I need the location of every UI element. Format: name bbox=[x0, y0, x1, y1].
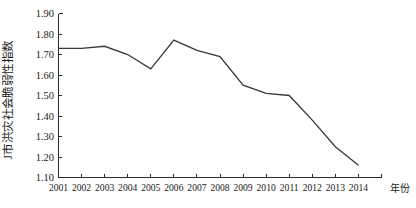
x-axis-tick-marks bbox=[59, 174, 359, 178]
x-tick-label: 2011 bbox=[280, 182, 299, 193]
y-axis-tick-marks bbox=[59, 14, 63, 178]
y-tick-label: 1.30 bbox=[36, 131, 54, 142]
x-tick-label: 2010 bbox=[257, 182, 276, 193]
y-tick-label: 1.80 bbox=[36, 29, 54, 40]
x-axis-title: 年份 bbox=[390, 182, 410, 194]
x-tick-label: 2004 bbox=[118, 182, 137, 193]
y-tick-label: 1.20 bbox=[36, 152, 54, 163]
x-tick-label: 2007 bbox=[187, 182, 206, 193]
x-tick-label: 2009 bbox=[233, 182, 252, 193]
x-tick-label: 2002 bbox=[72, 182, 91, 193]
x-tick-label: 2008 bbox=[210, 182, 229, 193]
x-tick-label: 2012 bbox=[303, 182, 322, 193]
x-tick-label: 2013 bbox=[326, 182, 345, 193]
chart-container: J市洪灾社会脆弱性指数 1.901.801.701.601.501.401.30… bbox=[0, 0, 416, 208]
y-axis-title: J市洪灾社会脆弱性指数 bbox=[1, 40, 14, 159]
y-tick-label: 1.40 bbox=[36, 111, 54, 122]
data-series-line bbox=[59, 40, 359, 165]
y-axis-tick-labels: 1.901.801.701.601.501.401.301.201.10 bbox=[36, 8, 54, 183]
y-tick-label: 1.70 bbox=[36, 49, 54, 60]
axis-lines bbox=[59, 14, 382, 178]
y-tick-label: 1.90 bbox=[36, 8, 54, 19]
line-chart: J市洪灾社会脆弱性指数 1.901.801.701.601.501.401.30… bbox=[0, 0, 416, 208]
x-tick-label: 2006 bbox=[164, 182, 183, 193]
x-axis-tick-labels: 2001200220032004200520062007200820092010… bbox=[49, 182, 368, 193]
y-tick-label: 1.50 bbox=[36, 90, 54, 101]
x-tick-label: 2014 bbox=[349, 182, 368, 193]
x-tick-label: 2005 bbox=[141, 182, 160, 193]
x-tick-label: 2001 bbox=[49, 182, 68, 193]
x-tick-label: 2003 bbox=[95, 182, 114, 193]
y-tick-label: 1.60 bbox=[36, 70, 54, 81]
